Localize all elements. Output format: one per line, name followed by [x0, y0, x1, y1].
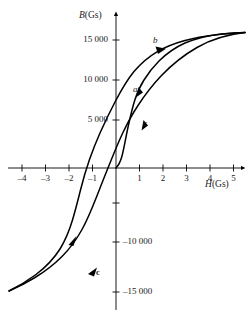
y-tick-label-minus-10000: –10 000: [123, 237, 152, 246]
curve-annotation-c: c: [143, 119, 147, 128]
y-tick-label-5000: 5 000: [62, 115, 108, 124]
x-tick-label-4: 4: [198, 174, 222, 183]
curve-annotation-b: b: [153, 36, 158, 45]
y-tick-label-10000: 10 000: [62, 75, 108, 84]
curve-annotation-c-lower: c: [96, 268, 100, 277]
y-tick-label-15000: 15 000: [62, 35, 108, 44]
curves-group: [9, 33, 245, 291]
x-tick-label-5: 5: [222, 174, 246, 183]
x-tick-label-1: 1: [128, 174, 152, 183]
x-tick-label-3: 3: [175, 174, 199, 183]
curve-ascending-branch: [9, 33, 245, 291]
x-tick-label-minus-2: –2: [57, 174, 81, 183]
chart-canvas: [0, 0, 251, 320]
axes-group: [8, 16, 241, 310]
curve-annotation-a: a: [133, 85, 138, 94]
x-tick-label-minus-1: –1: [81, 174, 105, 183]
y-axis-title: B(Gs): [79, 11, 102, 21]
curve-initial-magnetization: [116, 33, 245, 168]
y-axis-title-unit: (Gs): [85, 10, 102, 20]
x-tick-label-minus-4: –4: [10, 174, 34, 183]
curve-descending-branch: [9, 33, 245, 291]
x-tick-label-minus-3: –3: [34, 174, 58, 183]
hysteresis-curve-figure: B(Gs) H(Gs) 15 000 10 000 5 000 –10 000 …: [0, 0, 251, 320]
x-tick-label-2: 2: [151, 174, 175, 183]
y-tick-label-minus-15000: –15 000: [123, 287, 152, 296]
